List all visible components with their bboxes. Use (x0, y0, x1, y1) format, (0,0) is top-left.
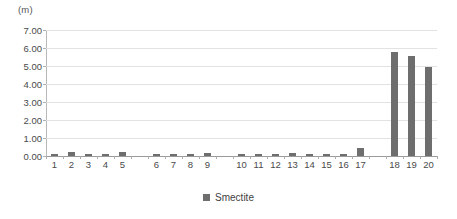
y-axis-tick-label-4.00: 4.00 (8, 79, 42, 90)
x-axis-label-group: 1234567891011121314151617181920 (46, 159, 437, 175)
gridline-6.00 (46, 48, 437, 49)
x-axis-tick-label-13: 13 (287, 159, 298, 170)
x-axis-line (46, 156, 437, 157)
bar-17 (357, 148, 365, 156)
x-axis-tick-mark (369, 156, 370, 159)
x-axis-tick-mark (80, 156, 81, 159)
x-axis-tick-label-18: 18 (389, 159, 400, 170)
x-axis-tick-mark (267, 156, 268, 159)
x-axis-tick-label-17: 17 (355, 159, 366, 170)
gridline-4.00 (46, 84, 437, 85)
x-axis-tick-mark (437, 156, 438, 159)
x-axis-tick-mark (233, 156, 234, 159)
x-axis-tick-mark (131, 156, 132, 159)
gridline-2.00 (46, 120, 437, 121)
x-axis-tick-mark (403, 156, 404, 159)
legend-label-smectite: Smectite (215, 192, 254, 203)
y-axis-tick-label-2.00: 2.00 (8, 115, 42, 126)
x-axis-tick-mark (165, 156, 166, 159)
x-axis-tick-mark (284, 156, 285, 159)
x-axis-tick-label-6: 6 (154, 159, 159, 170)
y-axis-tick-label-0.00: 0.00 (8, 151, 42, 162)
x-axis-tick-mark (63, 156, 64, 159)
x-axis-tick-label-11: 11 (254, 159, 264, 170)
bar-18 (391, 52, 399, 156)
x-axis-tick-mark (148, 156, 149, 159)
gridline-5.00 (46, 66, 437, 67)
gridline-7.00 (46, 30, 437, 31)
x-axis-tick-mark (301, 156, 302, 159)
x-axis-tick-mark (318, 156, 319, 159)
x-axis-tick-mark (114, 156, 115, 159)
x-axis-tick-label-12: 12 (270, 159, 281, 170)
chart-legend: Smectite (0, 192, 457, 203)
x-axis-tick-mark (216, 156, 217, 159)
x-axis-tick-mark (352, 156, 353, 159)
x-axis-tick-mark (386, 156, 387, 159)
y-axis-tick-label-3.00: 3.00 (8, 97, 42, 108)
x-axis-tick-mark (97, 156, 98, 159)
y-axis-tick-label-7.00: 7.00 (8, 25, 42, 36)
y-axis-tick-label-6.00: 6.00 (8, 43, 42, 54)
x-axis-tick-label-20: 20 (423, 159, 434, 170)
x-axis-tick-mark (250, 156, 251, 159)
y-axis-tick-label-1.00: 1.00 (8, 133, 42, 144)
x-axis-tick-label-5: 5 (120, 159, 125, 170)
gridline-3.00 (46, 102, 437, 103)
bar-19 (408, 56, 416, 156)
plot-area (46, 30, 437, 156)
x-axis-tick-mark (46, 156, 47, 159)
gridline-1.00 (46, 138, 437, 139)
x-axis-tick-label-3: 3 (86, 159, 91, 170)
x-axis-tick-label-7: 7 (171, 159, 176, 170)
x-axis-tick-mark (420, 156, 421, 159)
smectite-bar-chart: (m) 0.001.002.003.004.005.006.007.00 123… (0, 0, 457, 219)
x-axis-tick-label-15: 15 (321, 159, 332, 170)
bar-20 (425, 67, 433, 156)
x-axis-tick-label-9: 9 (205, 159, 210, 170)
x-axis-tick-label-1: 1 (52, 159, 57, 170)
x-axis-tick-label-10: 10 (236, 159, 247, 170)
x-axis-tick-label-14: 14 (304, 159, 315, 170)
x-axis-tick-mark (182, 156, 183, 159)
x-axis-tick-label-2: 2 (69, 159, 74, 170)
x-axis-tick-label-19: 19 (406, 159, 417, 170)
x-axis-tick-mark (335, 156, 336, 159)
x-axis-tick-mark (199, 156, 200, 159)
y-axis-tick-label-5.00: 5.00 (8, 61, 42, 72)
x-axis-tick-label-4: 4 (103, 159, 108, 170)
legend-swatch-smectite (203, 194, 210, 201)
x-axis-tick-label-16: 16 (338, 159, 349, 170)
x-axis-tick-label-8: 8 (188, 159, 193, 170)
